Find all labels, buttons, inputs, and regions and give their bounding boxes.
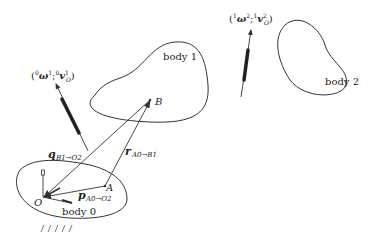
point-B-label: B: [154, 96, 162, 107]
svg-text:r: r: [125, 145, 132, 158]
twist12-thick: [244, 50, 248, 80]
frame-axis-y-head: [42, 170, 45, 175]
svg-text:q: q: [48, 148, 56, 161]
body0-label: body 0: [62, 206, 96, 217]
svg-text:(1ω2;1v2O): (1ω2;1v2O): [229, 12, 273, 26]
vector-q-label: q B1→O2: [48, 148, 82, 162]
body2-label: body 2: [325, 76, 359, 87]
svg-text:A0→O2: A0→O2: [85, 195, 112, 203]
kinematics-diagram: body 1 body 2 body 0 O A B q B1→O2 r A0→…: [0, 0, 378, 242]
twist01-thick: [62, 99, 79, 133]
twist12-label: (1ω2;1v2O): [229, 12, 273, 26]
point-B: [149, 99, 152, 102]
svg-text:p: p: [78, 189, 86, 202]
body1-label: body 1: [163, 51, 197, 62]
vector-q: [44, 100, 150, 197]
point-O-label: O: [34, 197, 42, 208]
svg-text:(0ω1;0v1O): (0ω1;0v1O): [31, 69, 75, 83]
vector-r-label: r A0→B1: [125, 145, 157, 159]
twist01-label: (0ω1;0v1O): [31, 69, 75, 83]
svg-text:A0→B1: A0→B1: [131, 151, 157, 159]
vector-r: [105, 101, 150, 186]
point-A-label: A: [105, 182, 113, 193]
svg-text:B1→O2: B1→O2: [55, 154, 82, 162]
ground-hatch: [41, 225, 72, 232]
